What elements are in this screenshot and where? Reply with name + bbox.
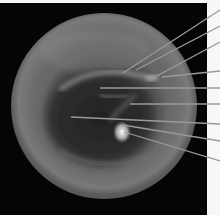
scan-disc [11, 13, 197, 199]
scan-figure [0, 0, 220, 215]
